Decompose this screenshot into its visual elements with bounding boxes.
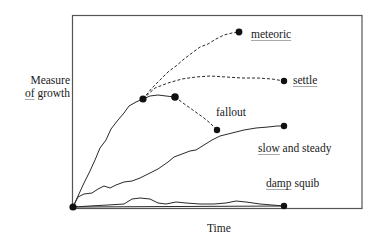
fallout-end-dot xyxy=(214,127,220,133)
fallout-curve xyxy=(175,97,217,130)
growth-diagram xyxy=(0,0,374,243)
baseline xyxy=(73,206,284,207)
y-axis-label-line1: Measure xyxy=(20,74,70,87)
initial-rise-curve xyxy=(73,99,143,207)
slow-and-steady-end-dot xyxy=(281,123,287,129)
label-settle: settle xyxy=(293,74,317,86)
plateau-end-dot xyxy=(171,93,179,101)
origin-dot xyxy=(69,203,76,210)
plateau-curve xyxy=(143,95,175,99)
label-damp-squib: damp squib xyxy=(266,177,319,189)
x-axis-label: Time xyxy=(207,222,231,234)
label-meteoric: meteoric xyxy=(251,28,291,40)
label-slow-and-steady: slow and steady xyxy=(258,142,331,154)
meteoric-curve xyxy=(143,32,239,99)
meteoric-end-dot xyxy=(236,29,243,36)
peak-dot xyxy=(139,95,146,102)
settle-end-dot xyxy=(281,78,287,84)
damp-squib-end-dot xyxy=(281,203,287,209)
y-axis-label: Measure of growth xyxy=(20,74,70,100)
y-axis-label-line2: of growth xyxy=(20,87,70,100)
slow-and-steady-curve xyxy=(73,126,284,207)
label-fallout: fallout xyxy=(216,106,246,118)
